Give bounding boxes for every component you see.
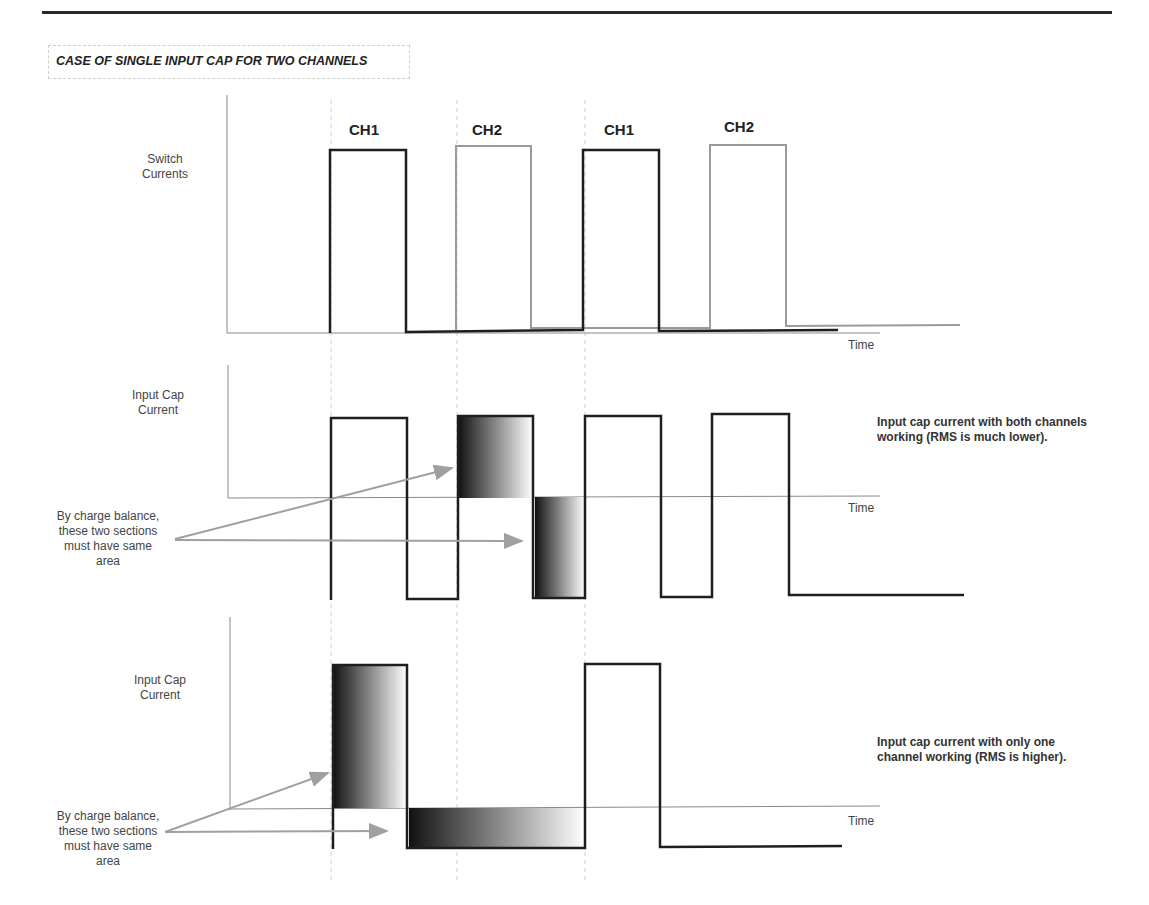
annotation-line: must have same [38,839,178,854]
switch-currents-panel [227,95,960,333]
ylabel-line: Current [118,403,198,418]
pulse-label-ch2: CH2 [724,118,754,135]
note-line: channel working (RMS is higher). [877,750,1066,765]
time-axis-label: Time [848,501,874,515]
ylabel-line: Currents [130,167,200,182]
both-channels-panel [175,365,964,600]
ylabel-line: Switch [130,152,200,167]
note-line: Input cap current with only one [877,735,1066,750]
one-channel-note: Input cap current with only one channel … [877,735,1066,765]
annotation-line: must have same [38,539,178,554]
both-ylabel: Input Cap Current [118,388,198,418]
ylabel-line: Current [120,688,200,703]
ylabel-line: Input Cap [118,388,198,403]
annotation-line: these two sections [38,524,178,539]
one-ylabel: Input Cap Current [120,673,200,703]
annotation-line: these two sections [38,824,178,839]
time-axis-label: Time [848,814,874,828]
ylabel-line: Input Cap [120,673,200,688]
time-axis-label: Time [848,338,874,352]
note-line: working (RMS is much lower). [877,430,1087,445]
one-channel-panel [165,617,880,849]
pulse-label-ch2: CH2 [472,121,502,138]
annotation-line: area [38,854,178,869]
note-line: Input cap current with both channels [877,415,1087,430]
charge-balance-annotation: By charge balance, these two sections mu… [38,809,178,869]
pulse-label-ch1: CH1 [349,121,379,138]
waveform-diagram [0,0,1149,905]
both-channels-note: Input cap current with both channels wor… [877,415,1087,445]
switch-ylabel: Switch Currents [130,152,200,182]
annotation-line: area [38,554,178,569]
annotation-line: By charge balance, [38,509,178,524]
pulse-label-ch1: CH1 [604,121,634,138]
annotation-line: By charge balance, [38,809,178,824]
charge-balance-annotation: By charge balance, these two sections mu… [38,509,178,569]
